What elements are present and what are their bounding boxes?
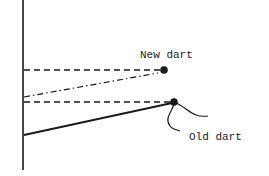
old-dart-label: Old dart: [189, 131, 242, 143]
new-dart-label: New dart: [140, 49, 193, 61]
new-dart-dot: [160, 66, 168, 74]
old-dart-solid-line: [24, 103, 172, 135]
new-dart-dash-dot-line: [24, 73, 158, 97]
dart-diagram: [0, 0, 269, 176]
old-dart-curl-left: [168, 104, 180, 131]
old-dart-curl-right: [176, 103, 208, 116]
